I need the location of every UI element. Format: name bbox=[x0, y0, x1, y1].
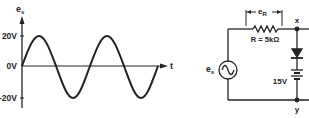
battery-label: 15V bbox=[273, 77, 288, 86]
er-arrow-right-icon bbox=[277, 10, 281, 14]
x-axis-label: t bbox=[170, 61, 173, 71]
node-x-dot bbox=[295, 27, 299, 31]
node-y-dot bbox=[295, 98, 299, 102]
resistor-label: R = 5kΩ bbox=[251, 35, 279, 44]
tick-label-20v: 20V bbox=[2, 31, 17, 41]
node-y-label: y bbox=[295, 105, 300, 114]
resistor-icon bbox=[253, 26, 278, 32]
node-x-label: x bbox=[295, 16, 300, 25]
er-arrow-left-icon bbox=[247, 10, 251, 14]
diode-icon bbox=[292, 49, 302, 57]
x-axis-arrow-icon bbox=[160, 64, 168, 69]
source-label: es bbox=[206, 64, 215, 75]
tick-label-neg20v: -20V bbox=[0, 93, 17, 103]
waveform-plot: es 20V 0V -20V t bbox=[0, 4, 173, 108]
y-axis-arrow-icon bbox=[20, 16, 25, 24]
diagram-canvas: es 20V 0V -20V t bbox=[0, 0, 309, 118]
tick-label-0v: 0V bbox=[7, 61, 18, 71]
sine-wave bbox=[22, 36, 158, 98]
y-axis-label: es bbox=[16, 4, 25, 15]
resistor-voltage-label: eR bbox=[258, 7, 267, 17]
ac-source-sine-icon bbox=[222, 66, 234, 75]
